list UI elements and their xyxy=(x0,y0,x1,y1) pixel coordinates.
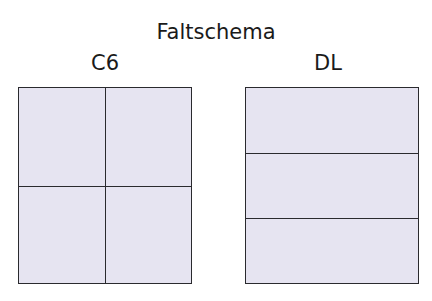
dl-fold-sheet xyxy=(245,87,419,284)
c6-horizontal-fold-line xyxy=(19,186,191,187)
dl-label: DL xyxy=(268,50,388,76)
diagram-title: Faltschema xyxy=(0,19,432,45)
c6-fold-sheet xyxy=(18,87,192,284)
dl-fold-line-2 xyxy=(246,218,418,219)
dl-fold-line-1 xyxy=(246,153,418,154)
c6-label: C6 xyxy=(45,50,165,76)
